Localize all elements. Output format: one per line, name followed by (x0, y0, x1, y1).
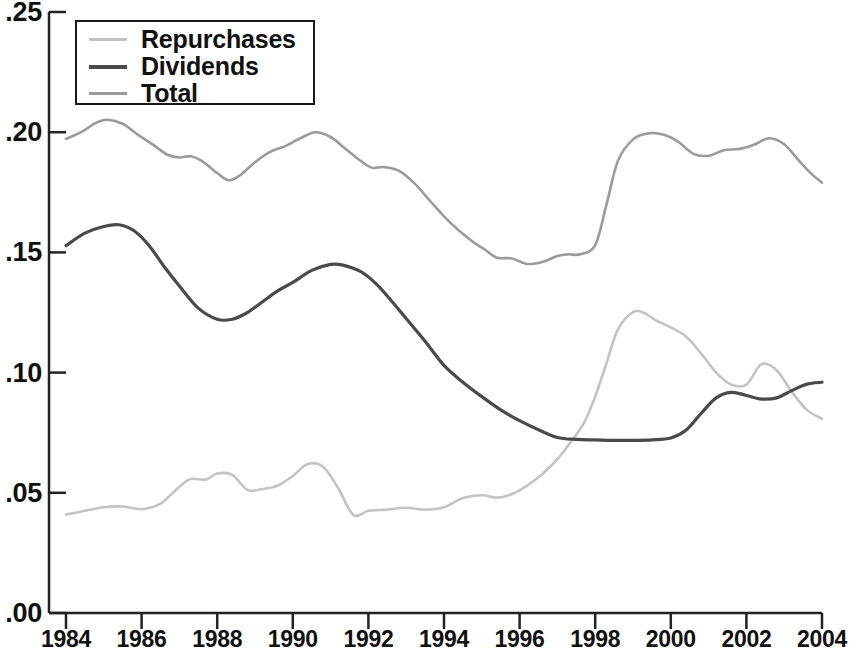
legend-item-dividends: Dividends (77, 53, 313, 80)
x-axis-label: 2004 (797, 626, 847, 651)
legend-label: Repurchases (141, 25, 296, 54)
series-line-repurchases (66, 311, 822, 516)
x-axis-label: 1988 (192, 626, 242, 651)
y-axis-label: .15 (0, 237, 42, 268)
legend-swatch-repurchases-line-icon (89, 38, 127, 41)
y-axis-label: .20 (0, 117, 42, 148)
x-axis-label: 1994 (419, 626, 469, 651)
legend-swatch-total-line-icon (89, 92, 127, 95)
x-axis-label: 1984 (41, 626, 91, 651)
chart-legend: RepurchasesDividendsTotal (75, 20, 315, 105)
x-axis-label: 1996 (495, 626, 545, 651)
legend-item-total: Total (77, 80, 313, 107)
series-paths (66, 120, 822, 516)
legend-swatch-dividends-line-icon (89, 65, 127, 69)
x-axis-label: 1992 (343, 626, 393, 651)
x-axis-label: 2002 (721, 626, 771, 651)
x-axis-label: 1990 (268, 626, 318, 651)
series-line-dividends (66, 225, 822, 441)
series-line-total (66, 120, 822, 264)
chart-container: .25.20.15.10.05.00 198419861988199019921… (0, 0, 849, 651)
x-axis-label: 2000 (646, 626, 696, 651)
x-axis-label: 1986 (117, 626, 167, 651)
legend-label: Dividends (141, 52, 259, 81)
y-axis-label: .05 (0, 477, 42, 508)
x-axis-label: 1998 (570, 626, 620, 651)
y-axis-label: .00 (0, 598, 42, 629)
y-axis-ticks (49, 12, 66, 613)
y-axis-label: .10 (0, 357, 42, 388)
legend-label: Total (141, 79, 198, 108)
y-axis-label: .25 (0, 0, 42, 28)
legend-item-repurchases: Repurchases (77, 26, 313, 53)
